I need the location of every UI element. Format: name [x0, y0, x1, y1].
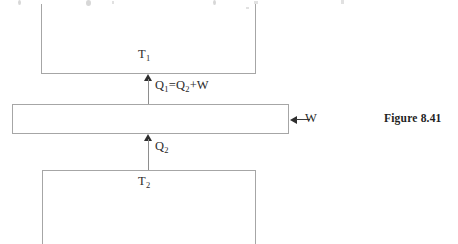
figure-caption: Figure 8.41: [384, 112, 442, 124]
cold-reservoir-label-main: T: [138, 174, 146, 188]
arrow-shaft: [148, 79, 149, 104]
arrow-shaft: [148, 139, 149, 170]
heat-in-arrow: [144, 74, 153, 104]
heat-in-q-sub: 1: [164, 84, 168, 94]
figure-canvas: T1 Q1=Q2+W W Q2 T2 Figure 8.41: [0, 0, 458, 244]
heat-in-equals: =Q: [169, 78, 185, 92]
heat-out-label: Q2: [155, 139, 169, 154]
heat-in-q2-sub: 2: [185, 84, 189, 94]
heat-out-arrow: [144, 134, 153, 170]
heat-out-q-sub: 2: [164, 145, 168, 155]
cold-reservoir-label-sub: 2: [146, 180, 151, 190]
heat-in-label: Q1=Q2+W: [155, 78, 209, 93]
heat-engine-bar: [12, 104, 289, 134]
heat-in-plus-w: +W: [190, 78, 209, 92]
heat-in-q: Q: [155, 78, 164, 92]
hot-reservoir-label-main: T: [138, 47, 146, 61]
cold-reservoir-label: T2: [138, 174, 151, 189]
hot-reservoir-label-sub: 1: [146, 53, 151, 63]
heat-out-q: Q: [155, 139, 164, 153]
hot-reservoir-label: T1: [138, 47, 151, 62]
hot-reservoir-box: [41, 4, 256, 74]
work-label: W: [305, 111, 317, 126]
